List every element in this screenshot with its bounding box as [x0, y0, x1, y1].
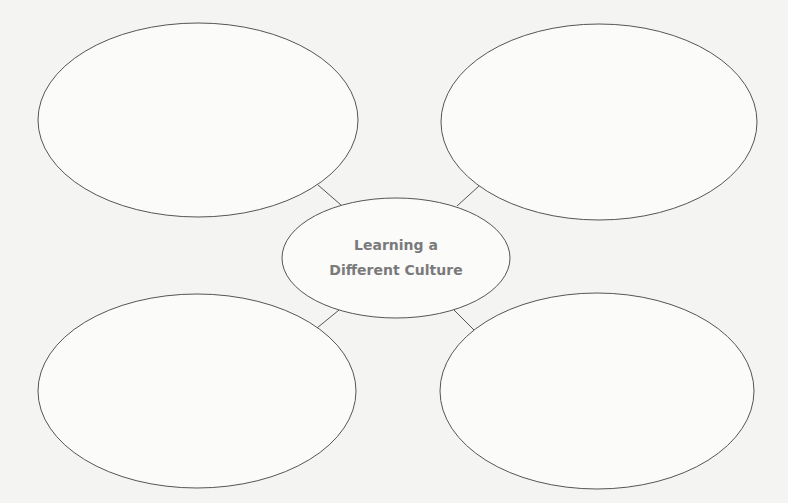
center-topic-line1: Learning a: [354, 233, 438, 258]
bubble-top-right[interactable]: [441, 24, 757, 220]
bubble-bottom-right[interactable]: [440, 293, 754, 489]
bubble-bottom-left[interactable]: [38, 294, 356, 488]
bubble-top-left[interactable]: [38, 23, 358, 217]
center-topic-line2: Different Culture: [329, 258, 462, 283]
center-topic: Learning a Different Culture: [282, 198, 510, 318]
